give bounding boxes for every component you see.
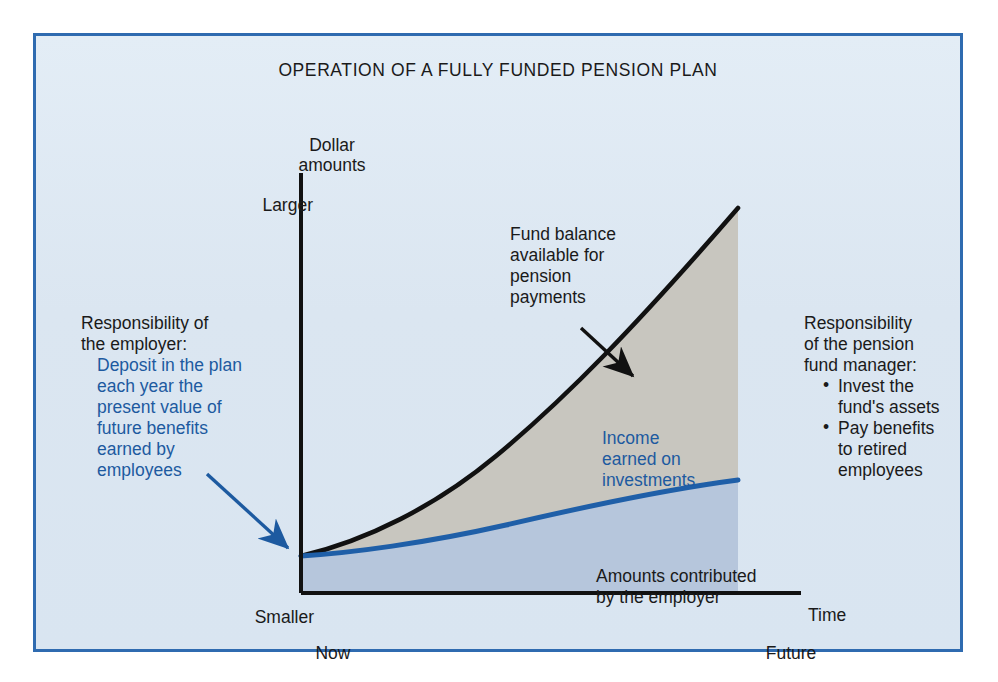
bullet2-line2: to retired [838, 439, 907, 459]
left-note-body-line2: each year the [81, 376, 296, 397]
fund-note-line3: pension [510, 266, 695, 287]
right-note-lead-line2: of the pension [804, 334, 994, 355]
y-axis-top-label: Larger [241, 196, 313, 216]
x-axis-start-label: Now [283, 644, 383, 664]
right-note-lead-line3: fund manager: [804, 355, 994, 376]
fund-note-line1: Fund balance [510, 224, 695, 245]
page-canvas: OPERATION OF A FULLY FUNDED PENSION PLAN [0, 0, 998, 682]
x-axis-title: Time [808, 606, 898, 626]
list-item-cont: employees [804, 460, 994, 481]
left-note-lead-line2: the employer: [81, 334, 296, 355]
fund-note-line4: payments [510, 287, 695, 308]
employer-responsibility-note: Responsibility of the employer: Deposit … [81, 313, 296, 481]
left-note-body-line6: employees [81, 460, 296, 481]
y-axis-bottom-label: Smaller [232, 608, 314, 628]
income-earned-label: Income earned on investments [602, 428, 762, 491]
right-note-lead-line1: Responsibility [804, 313, 994, 334]
left-note-body-line5: earned by [81, 439, 296, 460]
income-note-line2: earned on [602, 449, 762, 470]
y-axis-title: Dollar amounts [272, 136, 392, 175]
amounts-note-line1: Amounts contributed [596, 566, 846, 587]
fund-balance-label: Fund balance available for pension payme… [510, 224, 695, 308]
deposit-arrow [207, 474, 288, 548]
left-note-body-line3: present value of [81, 397, 296, 418]
y-axis-title-line1: Dollar [272, 136, 392, 156]
left-note-lead-line1: Responsibility of [81, 313, 296, 334]
bullet-icon: • [823, 417, 829, 438]
scan-artifact [40, 0, 640, 14]
fund-note-line2: available for [510, 245, 695, 266]
bullet-icon: • [823, 375, 829, 396]
list-item: • Pay benefits [804, 418, 994, 439]
fund-manager-duty-list: • Invest the fund's assets • Pay benefit… [804, 376, 994, 481]
income-note-line3: investments [602, 470, 762, 491]
list-item-cont: fund's assets [804, 397, 994, 418]
y-axis-title-line2: amounts [272, 156, 392, 176]
list-item: • Invest the [804, 376, 994, 397]
exhibit-frame: OPERATION OF A FULLY FUNDED PENSION PLAN [33, 33, 963, 652]
left-note-body-line1: Deposit in the plan [81, 355, 296, 376]
income-note-line1: Income [602, 428, 762, 449]
x-axis-end-label: Future [736, 644, 846, 664]
list-item-cont: to retired [804, 439, 994, 460]
amounts-contributed-label: Amounts contributed by the employer [596, 566, 846, 608]
fund-manager-responsibility-note: Responsibility of the pension fund manag… [804, 313, 994, 481]
bullet1-line1: Invest the [838, 376, 914, 396]
left-note-body-line4: future benefits [81, 418, 296, 439]
bullet2-line3: employees [838, 460, 923, 480]
bullet2-line1: Pay benefits [838, 418, 934, 438]
amounts-note-line2: by the employer [596, 587, 846, 608]
bullet1-line2: fund's assets [838, 397, 940, 417]
